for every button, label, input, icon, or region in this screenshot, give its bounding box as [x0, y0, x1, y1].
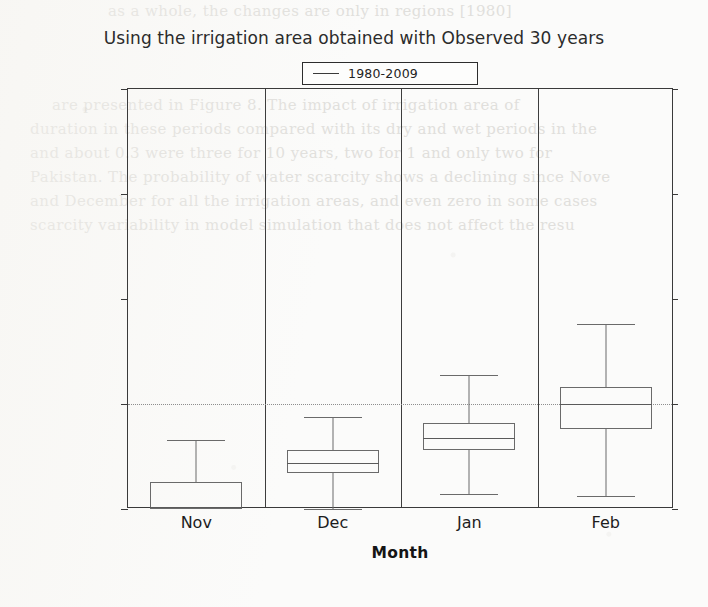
whisker-cap-lower	[577, 496, 635, 497]
box-iqr	[150, 482, 242, 509]
whisker-lower	[605, 429, 606, 496]
y-axis-tick	[121, 509, 128, 510]
boxplot-figure: Using the irrigation area obtained with …	[0, 0, 708, 607]
whisker-lower	[332, 473, 333, 509]
whisker-cap-lower	[304, 509, 362, 510]
whisker-upper	[196, 440, 197, 482]
x-axis-tick-label-jan: Jan	[409, 513, 529, 532]
whisker-upper	[332, 417, 333, 451]
median-line	[287, 463, 379, 464]
whisker-lower	[469, 450, 470, 494]
whisker-cap-upper	[167, 440, 225, 441]
legend-entry-label: 1980-2009	[348, 66, 418, 81]
whisker-cap-upper	[440, 375, 498, 376]
y-axis-tick	[121, 404, 128, 405]
boxplot-jan	[401, 89, 538, 507]
median-line	[150, 507, 242, 508]
y-axis-tick	[121, 194, 128, 195]
whisker-cap-upper	[304, 417, 362, 418]
whisker-cap-upper	[577, 324, 635, 325]
box-iqr	[423, 423, 515, 450]
plot-inner: 0.000.250.500.751.00NovDecJanFeb	[128, 89, 672, 507]
x-axis-tick-label-dec: Dec	[273, 513, 393, 532]
y-axis-tick	[121, 299, 128, 300]
x-axis-tick-label-feb: Feb	[546, 513, 666, 532]
boxplot-nov	[128, 89, 265, 507]
plot-area-frame: 0.000.250.500.751.00NovDecJanFeb Probabi…	[127, 88, 673, 508]
boxplot-dec	[265, 89, 402, 507]
whisker-upper	[469, 375, 470, 423]
x-axis-title: Month	[128, 544, 672, 562]
x-axis-tick-label-nov: Nov	[136, 513, 256, 532]
median-line	[560, 404, 652, 405]
y-axis-tick	[121, 89, 128, 90]
legend-line-marker-icon	[313, 73, 339, 74]
y-axis-tick-right	[672, 509, 678, 510]
whisker-upper	[605, 324, 606, 387]
box-iqr	[560, 387, 652, 429]
box-iqr	[287, 450, 379, 473]
chart-legend: 1980-2009	[302, 62, 478, 85]
median-line	[423, 438, 515, 439]
boxplot-feb	[538, 89, 675, 507]
chart-title: Using the irrigation area obtained with …	[0, 28, 708, 48]
whisker-cap-lower	[440, 494, 498, 495]
